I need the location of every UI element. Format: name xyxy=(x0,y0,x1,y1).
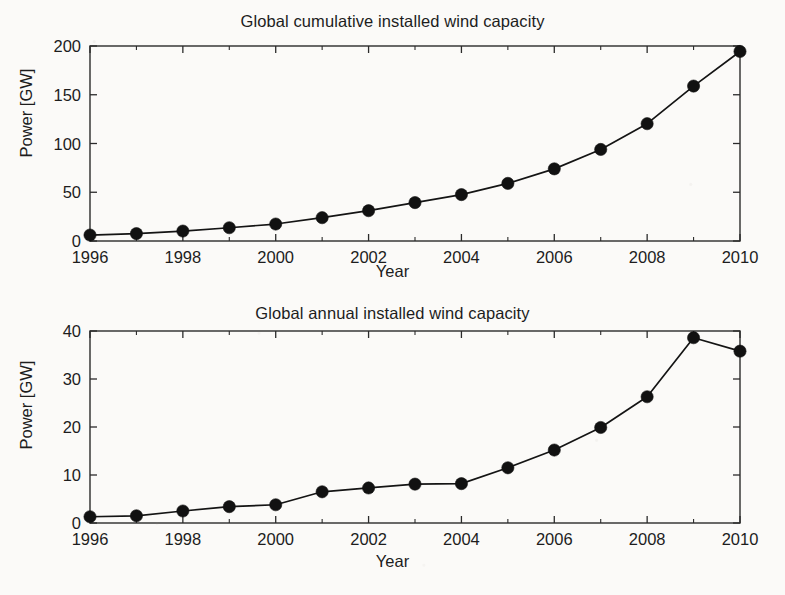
x-axis-label-cumulative: Year xyxy=(0,262,785,281)
chart-panel-cumulative: Global cumulative installed wind capacit… xyxy=(0,0,785,300)
svg-text:1998: 1998 xyxy=(164,530,201,548)
svg-text:150: 150 xyxy=(53,86,81,104)
svg-text:20: 20 xyxy=(63,418,81,436)
svg-text:2002: 2002 xyxy=(350,530,387,548)
svg-text:2004: 2004 xyxy=(443,530,480,548)
svg-text:10: 10 xyxy=(63,466,81,484)
svg-text:2008: 2008 xyxy=(629,530,666,548)
svg-text:100: 100 xyxy=(53,135,81,153)
svg-text:200: 200 xyxy=(53,37,81,55)
svg-text:50: 50 xyxy=(63,183,81,201)
svg-text:2010: 2010 xyxy=(722,530,759,548)
x-axis-label-annual: Year xyxy=(0,552,785,571)
svg-text:30: 30 xyxy=(63,370,81,388)
svg-text:1996: 1996 xyxy=(72,530,109,548)
plot-area-annual: 0102030401996199820002002200420062008201… xyxy=(0,295,785,595)
svg-text:2000: 2000 xyxy=(257,530,294,548)
svg-text:2006: 2006 xyxy=(536,530,573,548)
figure-wind-capacity: Global cumulative installed wind capacit… xyxy=(0,0,785,595)
chart-panel-annual: Global annual installed wind capacity Po… xyxy=(0,295,785,595)
svg-text:40: 40 xyxy=(63,322,81,340)
plot-area-cumulative: 0501001502001996199820002002200420062008… xyxy=(0,0,785,300)
